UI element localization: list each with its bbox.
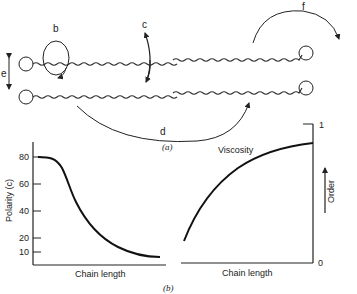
tick-label-10: 10	[19, 247, 29, 257]
tick-label-80: 80	[19, 152, 29, 162]
label-b: b	[53, 23, 59, 34]
upper-left-chain	[33, 63, 177, 66]
polarity-curve	[38, 157, 160, 257]
viscosity-curve	[184, 143, 313, 241]
tick-label-0: 0	[318, 258, 323, 268]
viscosity-order-chart: 1 0 Order Viscosity Chain length	[181, 120, 336, 278]
lower-right-chain	[173, 88, 302, 94]
polarity-x-label: Chain length	[75, 269, 126, 279]
tick-label-60: 60	[19, 179, 29, 189]
viscosity-curve-label: Viscosity	[218, 145, 254, 155]
part-a-molecule-diagram: b c e d f (a)	[1, 1, 339, 152]
upper-right-head-circle	[299, 46, 313, 60]
polarity-chart: 80 60 40 20 10 Polarity (c) Chain length	[4, 142, 166, 279]
caption-b: (b)	[163, 283, 174, 293]
lower-left-head-circle	[19, 90, 33, 104]
order-y-label: Order	[326, 180, 336, 203]
tick-label-1: 1	[319, 120, 324, 130]
flipflop-f-arrow-icon	[253, 11, 339, 43]
label-f: f	[302, 1, 305, 12]
figure-canvas: b c e d f (a) 80 60 40 20 10 Polarity (c…	[0, 0, 357, 294]
tick-label-20: 20	[19, 233, 29, 243]
lower-left-chain	[33, 96, 177, 99]
upper-right-chain	[173, 55, 302, 61]
polarity-y-label: Polarity (c)	[4, 179, 14, 222]
tick-label-40: 40	[19, 206, 29, 216]
lower-right-head-circle	[299, 81, 313, 95]
label-c: c	[142, 19, 147, 30]
label-d: d	[160, 126, 166, 137]
caption-a: (a)	[162, 142, 173, 152]
upper-left-head-circle	[19, 57, 33, 71]
label-e: e	[1, 68, 7, 79]
viscosity-x-label: Chain length	[222, 268, 273, 278]
